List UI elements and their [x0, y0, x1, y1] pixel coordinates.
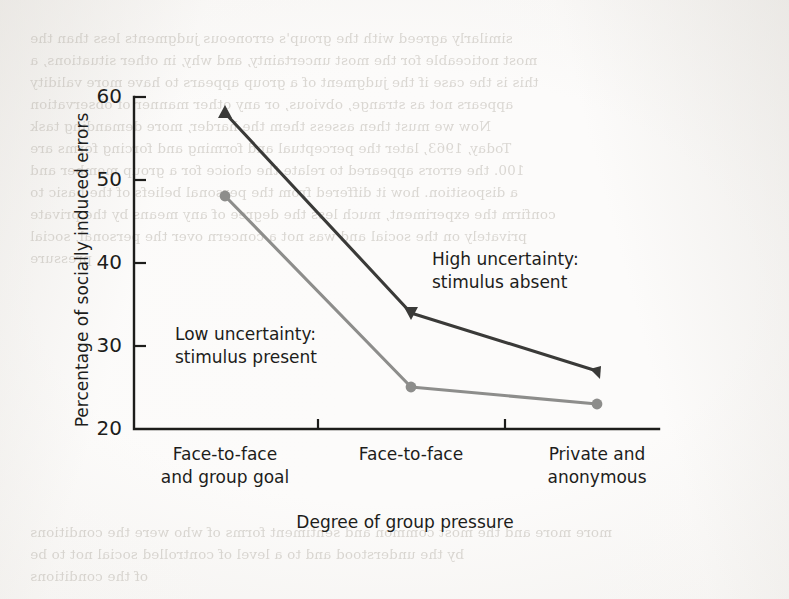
data-point-low-0	[220, 191, 231, 202]
x-category-label-2: Private and anonymous	[497, 443, 697, 490]
axis-spines	[134, 97, 659, 429]
series-label-high-uncertainty-line1: High uncertainty:	[432, 248, 579, 271]
x-category-label-2-line2: anonymous	[497, 466, 697, 489]
x-category-label-0: Face-to-face and group goal	[125, 443, 325, 490]
figure-page: similarly agreed with the group's errone…	[0, 0, 789, 599]
x-category-label-0-line2: and group goal	[125, 466, 325, 489]
x-tick-marks	[318, 419, 505, 429]
chart-plot-area: 60 50 40 30 20 Percentage of socially in…	[0, 0, 789, 599]
y-axis-title: Percentage of socially induced errors	[72, 105, 92, 435]
series-label-low-uncertainty-line2: stimulus present	[175, 346, 317, 369]
data-point-high-0	[218, 105, 232, 118]
x-category-label-0-line1: Face-to-face	[125, 443, 325, 466]
series-label-low-uncertainty-line1: Low uncertainty:	[175, 323, 317, 346]
x-category-label-1: Face-to-face	[311, 443, 511, 466]
series-low-uncertainty-line	[225, 196, 597, 404]
data-point-low-1	[406, 382, 417, 393]
axis-lines	[134, 97, 659, 429]
x-axis-title: Degree of group pressure	[205, 512, 605, 532]
x-category-label-2-line1: Private and	[497, 443, 697, 466]
series-low-uncertainty	[220, 191, 603, 410]
series-label-high-uncertainty-line2: stimulus absent	[432, 271, 579, 294]
data-point-low-2	[592, 399, 603, 410]
x-category-label-1-line1: Face-to-face	[311, 443, 511, 466]
series-label-low-uncertainty: Low uncertainty: stimulus present	[175, 323, 317, 370]
series-label-high-uncertainty: High uncertainty: stimulus absent	[432, 248, 579, 295]
y-tick-marks	[134, 97, 146, 346]
